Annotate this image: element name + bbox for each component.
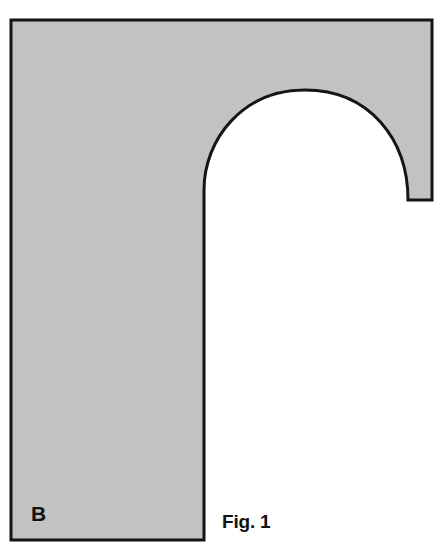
figure-caption: Fig. 1: [222, 512, 270, 531]
figure-drawing: [0, 0, 443, 554]
region-label-b: B: [31, 503, 46, 524]
hook-cross-section-shape: [11, 20, 432, 540]
figure-page: B Fig. 1: [0, 0, 443, 554]
